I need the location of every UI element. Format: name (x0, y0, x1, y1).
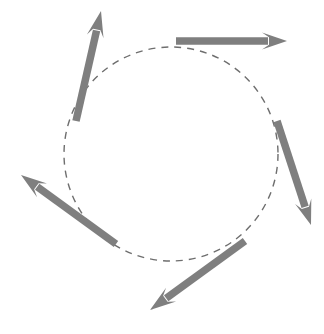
figure-background (0, 0, 324, 334)
figure-container (0, 0, 324, 334)
vector-diagram-canvas (0, 0, 324, 334)
